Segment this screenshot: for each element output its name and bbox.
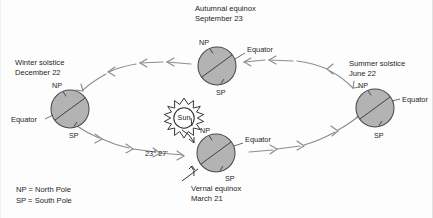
- orbit-segment: [83, 74, 106, 90]
- equator-leader: [45, 115, 53, 119]
- orbit-segment: [140, 62, 163, 63]
- orbit-arrowhead: [331, 126, 338, 136]
- orbit-scene: Sun: [1, 0, 433, 218]
- vernal-equinox-sp: SP: [225, 174, 235, 183]
- orbit-arrowhead: [95, 134, 102, 143]
- autumnal-equinox-sp: SP: [216, 88, 226, 97]
- winter-solstice-date: December 22: [15, 68, 61, 77]
- vernal-equinox-np: NP: [200, 126, 210, 135]
- tilt-axis-extension: [182, 169, 198, 181]
- vernal-equinox-equator: Equator: [245, 135, 271, 144]
- orbit-arrowhead: [126, 144, 133, 153]
- orbit-segment: [297, 61, 327, 69]
- earth-vernal-equinox: [197, 134, 243, 172]
- sun-icon: Sun: [164, 98, 203, 138]
- orbit-segment: [304, 132, 335, 145]
- orbit-segment: [277, 146, 300, 149]
- vernal-equinox-date: March 21: [191, 194, 223, 203]
- sun-label: Sun: [178, 113, 191, 122]
- orbit-arrowhead: [108, 67, 115, 76]
- orbit-segment: [269, 60, 293, 61]
- summer-solstice-equator: Equator: [402, 95, 428, 104]
- winter-solstice-np: NP: [52, 81, 62, 90]
- winter-solstice-equator: Equator: [11, 115, 37, 124]
- summer-solstice-sp: SP: [374, 131, 384, 140]
- legend-north-pole: NP = North Pole: [16, 185, 71, 194]
- orbit-arrowhead: [76, 84, 83, 91]
- autumnal-equinox-np: NP: [199, 38, 209, 47]
- equator-leader: [235, 53, 245, 59]
- orbit-segment: [102, 139, 129, 148]
- summer-solstice-name: Summer solstice: [349, 59, 405, 68]
- vernal-equinox-name: Vernal equinox: [191, 184, 241, 193]
- autumnal-equinox-date: September 23: [195, 14, 243, 23]
- summer-solstice-date: June 22: [349, 69, 376, 78]
- orbit-arrowhead: [177, 151, 184, 160]
- orbit-arrowhead: [270, 145, 277, 154]
- orbit-segment: [249, 150, 273, 152]
- summer-solstice-np: NP: [358, 81, 368, 90]
- winter-solstice-name: Winter solstice: [15, 58, 64, 67]
- diagram-canvas: Sun: [0, 0, 433, 218]
- legend-south-pole: SP = South Pole: [16, 196, 72, 205]
- autumnal-equinox-equator: Equator: [247, 45, 273, 54]
- winter-solstice-sp: SP: [69, 131, 79, 140]
- autumnal-equinox-name: Autumnal equinox: [195, 4, 256, 13]
- earth-summer-solstice: [356, 89, 400, 127]
- orbit-arrowhead: [297, 141, 304, 150]
- tilt-angle-label: 23° 27': [145, 149, 168, 158]
- earth-autumnal-equinox: [198, 47, 245, 85]
- orbit-segment: [77, 126, 99, 138]
- earth-winter-solstice: [45, 90, 89, 128]
- equator-leader: [234, 143, 243, 146]
- tilt-arrow-lower-head: [189, 166, 195, 170]
- equator-leader: [392, 99, 400, 101]
